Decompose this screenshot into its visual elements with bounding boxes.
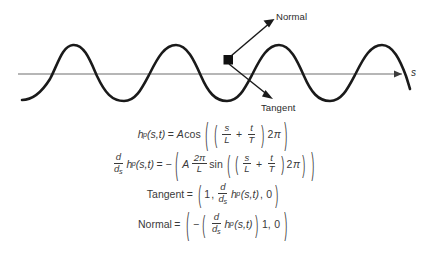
eq1-inner-paren-close: ) xyxy=(261,122,264,147)
equation-block: hp(s,t) = A cos ( ( s L + t T ) 2π ) d d… xyxy=(0,119,428,263)
eq2-operator-d-over-ds: d ds xyxy=(112,152,124,176)
eq4-fn-args: (s,t) xyxy=(234,219,252,230)
eq2-minus: − xyxy=(166,159,172,170)
eq3-last: 0 xyxy=(266,189,272,200)
eq2-fraction-t-over-T: t T xyxy=(267,153,277,175)
eq2-fraction-s-over-L: s L xyxy=(242,153,251,175)
eq3-fn-args: (s,t) xyxy=(241,189,259,200)
eq4-fn-subscript: p xyxy=(230,220,234,227)
eq1-fraction-s-over-L: s L xyxy=(222,123,231,145)
eq1-fraction-t-over-T: t T xyxy=(247,123,257,145)
eq2-inner-paren-open: ( xyxy=(235,154,238,173)
eq3-paren-open: ( xyxy=(198,182,201,207)
normal-label: Normal xyxy=(276,11,307,22)
eq2-outer-paren-open: ( xyxy=(175,149,178,179)
eq4-d-den-sub: s xyxy=(217,228,221,236)
eq1-num2: t xyxy=(248,123,255,135)
eq1-factor: 2 xyxy=(267,129,273,140)
equation-tangent: Tangent = ( 1, d ds hp (s,t), 0 ) xyxy=(0,182,428,206)
tangent-label: Tangent xyxy=(261,102,296,113)
eq1-trig: cos xyxy=(184,129,200,140)
eq4-label: Normal xyxy=(138,219,172,230)
equation-hp: hp(s,t) = A cos ( ( s L + t T ) 2π ) xyxy=(0,123,428,145)
eq3-fn-subscript: p xyxy=(236,190,240,197)
eq2-pi: π xyxy=(293,159,300,170)
eq2-mid-paren-close: ) xyxy=(303,152,306,177)
eq4-minus: − xyxy=(193,219,199,230)
eq1-den2: T xyxy=(247,135,257,146)
eq4-inner-paren-close: ) xyxy=(256,212,259,237)
eq3-equals: = xyxy=(187,189,193,200)
axis-arrowhead xyxy=(394,71,402,78)
eq1-den1: L xyxy=(222,135,231,146)
eq2-trig: sin xyxy=(209,159,222,170)
eq1-plus: + xyxy=(236,129,242,140)
eq2-mid-paren-open: ( xyxy=(227,152,230,177)
s-axis-label: s xyxy=(411,67,416,78)
eq1-outer-paren-close: ) xyxy=(284,119,287,149)
wave-diagram xyxy=(0,0,428,120)
eq4-inner-paren-open: ( xyxy=(202,212,205,237)
eq1-pi: π xyxy=(274,129,281,140)
eq2-d-den-sub: s xyxy=(119,168,123,176)
eq1-num1: s xyxy=(222,123,231,135)
eq2-den1: L xyxy=(242,164,251,175)
eq2-inner-paren-close: ) xyxy=(281,154,284,173)
eq2-coef-den: L xyxy=(195,164,204,175)
eq3-paren-close: ) xyxy=(275,182,278,207)
eq1-inner-paren-open: ( xyxy=(214,122,217,147)
eq2-fraction-2pi-over-L: 2π L xyxy=(192,153,208,175)
eq4-comma1: 1, xyxy=(262,219,271,230)
eq1-outer-paren-open: ( xyxy=(205,119,208,149)
eq3-label: Tangent xyxy=(147,189,184,200)
eq1-amplitude: A xyxy=(177,129,184,140)
s-axis xyxy=(18,71,402,78)
eq2-amplitude: A xyxy=(182,159,189,170)
eq4-equals: = xyxy=(174,219,180,230)
eq2-den2: T xyxy=(267,164,277,175)
equation-derivative: d ds hp(s,t) = − ( A 2π L sin ( ( s L + … xyxy=(0,150,428,176)
eq1-args: (s,t) xyxy=(147,129,165,140)
eq3-d-den-sub: s xyxy=(223,198,227,206)
eq4-outer-paren-open: ( xyxy=(186,209,189,239)
eq3-comma2: , xyxy=(260,189,263,200)
eq2-equals: = xyxy=(156,159,162,170)
eq3-comma1: , xyxy=(211,189,214,200)
eq4-last: 0 xyxy=(274,219,280,230)
eq4-operator-d-over-ds: d ds xyxy=(210,212,222,236)
sine-curve xyxy=(22,45,410,101)
eq3-first: 1 xyxy=(204,189,210,200)
eq2-args: (s,t) xyxy=(136,159,154,170)
eq2-plus: + xyxy=(256,159,262,170)
eq2-outer-paren-close: ) xyxy=(312,149,315,179)
tangent-arrow xyxy=(229,64,273,99)
eq3-operator-d-over-ds: d ds xyxy=(217,182,229,206)
eq4-outer-paren-close: ) xyxy=(284,209,287,239)
eq1-equals: = xyxy=(168,129,174,140)
eq2-factor: 2 xyxy=(287,159,293,170)
equation-normal: Normal = ( − ( d ds hp (s,t) ) 1, 0 ) xyxy=(0,212,428,236)
